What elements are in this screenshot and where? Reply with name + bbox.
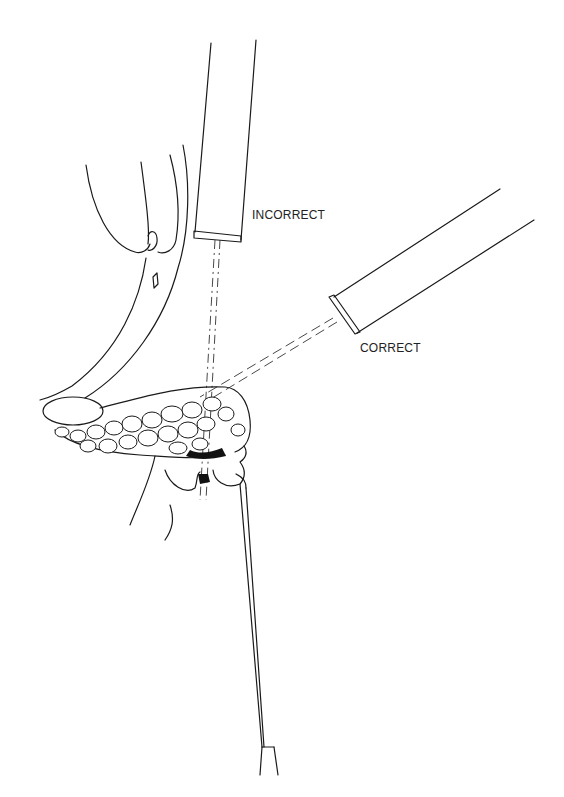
catheter [236, 474, 278, 775]
beam-incorrect [200, 240, 220, 500]
diagram-figure: INCORRECT CORRECT [0, 0, 564, 797]
beam-correct [200, 318, 337, 403]
probe-incorrect [194, 40, 256, 242]
pancreatic-stones [55, 397, 245, 459]
label-incorrect: INCORRECT [252, 208, 325, 222]
probe-correct [329, 189, 534, 334]
duodenum [130, 446, 246, 540]
label-correct: CORRECT [360, 341, 421, 355]
gallbladder-ducts [40, 145, 188, 400]
anatomy-drawing [0, 0, 564, 797]
pancreas [43, 387, 250, 459]
